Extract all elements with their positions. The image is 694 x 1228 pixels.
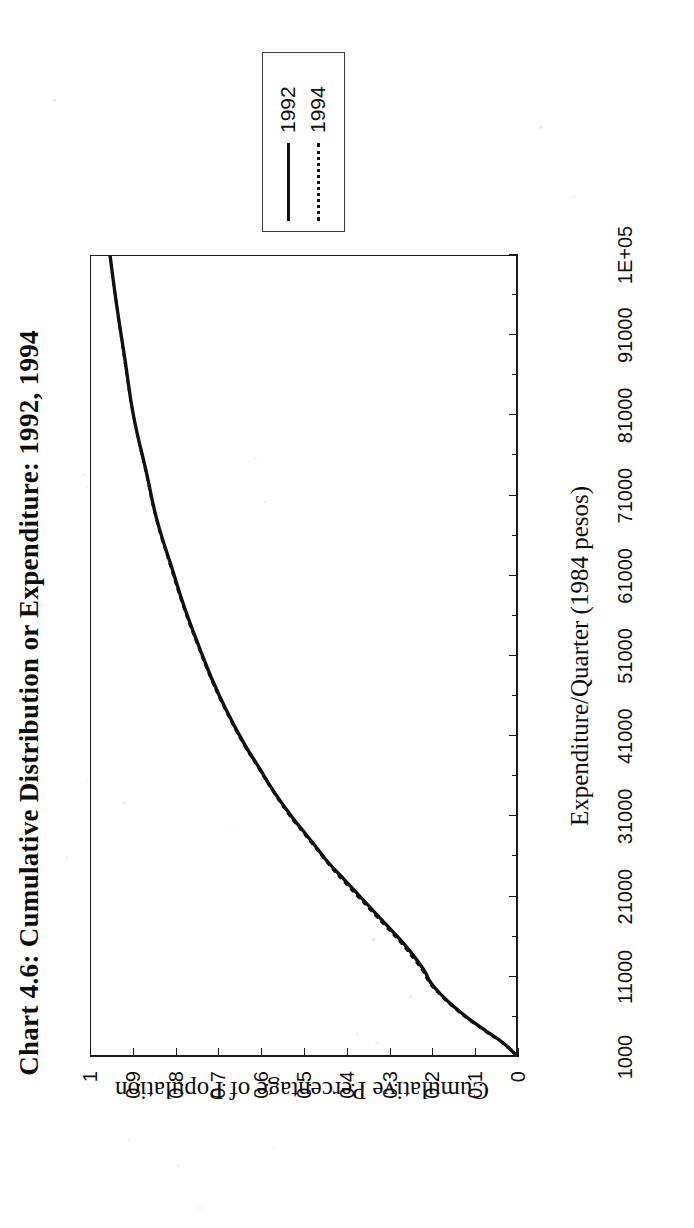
- scan-artifact: [86, 780, 88, 782]
- x-axis-tick-label: 91000: [614, 307, 637, 363]
- x-axis-tick-label: 21000: [614, 869, 637, 925]
- scan-artifact: [177, 1166, 179, 1168]
- scan-artifact: [273, 1148, 275, 1150]
- scan-artifact: [128, 1140, 130, 1142]
- y-axis-title: Cumulative Percentage of Population: [82, 1076, 522, 1104]
- x-axis-tick-label: 41000: [614, 708, 637, 764]
- scan-artifact: [53, 99, 56, 102]
- scan-artifact: [65, 856, 68, 859]
- x-axis-tick-label: 61000: [614, 548, 637, 604]
- legend-item-1994[interactable]: 1994: [302, 63, 332, 221]
- y-axis-tick: [518, 1048, 519, 1057]
- legend-label-1994: 1994: [307, 86, 328, 133]
- y-axis-tick: [432, 1048, 433, 1057]
- page-title: Chart 4.6: Cumulative Distribution or Ex…: [14, 178, 45, 1228]
- figure-canvas: Chart 4.6: Cumulative Distribution or Ex…: [0, 0, 694, 1228]
- y-axis-tick: [390, 1048, 391, 1057]
- y-axis-tick: [261, 1048, 262, 1057]
- y-axis-tick: [133, 1048, 134, 1057]
- x-axis-tick-label: 1E+05: [614, 226, 637, 284]
- scan-artifact: [86, 486, 88, 488]
- scan-artifact: [572, 196, 574, 198]
- y-axis-tick: [218, 1048, 219, 1057]
- legend-label-1992: 1992: [277, 86, 298, 133]
- y-axis-tick: [347, 1048, 348, 1057]
- chart-legend: 1992 1994: [262, 52, 345, 232]
- x-axis-tick-label: 71000: [614, 468, 637, 524]
- scan-artifact: [608, 1092, 609, 1093]
- x-axis-tick-label: 31000: [614, 789, 637, 845]
- y-axis-ticks: 00.10.20.30.40.50.60.70.80.91: [90, 255, 518, 1057]
- legend-item-1992[interactable]: 1992: [272, 63, 302, 221]
- y-axis-tick: [176, 1048, 177, 1057]
- x-axis-tick-label: 81000: [614, 388, 637, 444]
- scan-artifact: [539, 126, 542, 129]
- y-axis-tick: [475, 1048, 476, 1057]
- y-axis-tick: [90, 1048, 91, 1057]
- scan-artifact: [82, 473, 85, 476]
- scan-artifact: [199, 1207, 201, 1209]
- y-axis-tick: [304, 1048, 305, 1057]
- scan-artifact: [560, 428, 561, 429]
- x-axis-tick-label: 11000: [614, 950, 637, 1004]
- x-axis-tick-label: 51000: [614, 628, 637, 684]
- x-axis-title: Expenditure/Quarter (1984 pesos): [566, 255, 594, 1057]
- x-axis-tick-label: 1000: [614, 1035, 637, 1080]
